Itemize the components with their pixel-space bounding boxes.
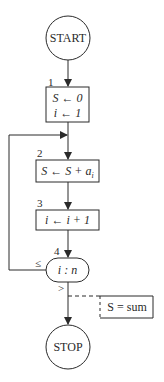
step-label-1: 1 [48,77,54,88]
decision-4-text: i : n [46,264,89,276]
box-2-subscript: i [91,171,93,180]
flowchart-canvas [0,0,164,382]
box-2-expression: S ← S + a [41,164,91,178]
stop-node-text: STOP [46,341,90,353]
branch-label-le: ≤ [35,258,41,269]
box-2-text: S ← S + ai [36,165,99,180]
start-node-text: START [46,32,90,44]
branch-label-gt: > [58,283,64,294]
box-3-text: i ← i + 1 [36,214,99,226]
box-1-line-1: S ← 0 [46,92,89,104]
box-1-line-2: i ← 1 [46,107,89,119]
step-label-3: 3 [37,198,43,209]
step-label-2: 2 [37,148,43,159]
step-label-4: 4 [54,246,60,257]
annotation-value: S = sum [107,300,146,314]
annotation-text: S = sum [102,301,152,313]
